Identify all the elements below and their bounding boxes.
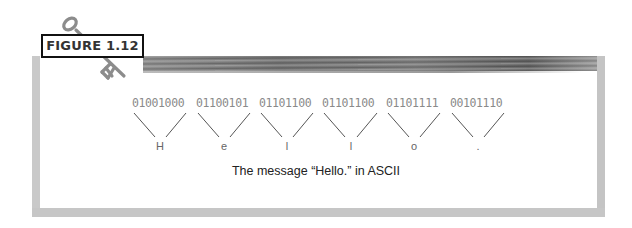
connector-lines (0, 0, 632, 228)
ascii-char: . (468, 140, 488, 152)
ascii-char: l (277, 140, 297, 152)
ascii-char: l (341, 140, 361, 152)
ascii-char: H (150, 140, 170, 152)
ascii-char: e (214, 140, 234, 152)
ascii-char: o (404, 140, 424, 152)
figure-caption: The message “Hello.” in ASCII (0, 164, 632, 178)
